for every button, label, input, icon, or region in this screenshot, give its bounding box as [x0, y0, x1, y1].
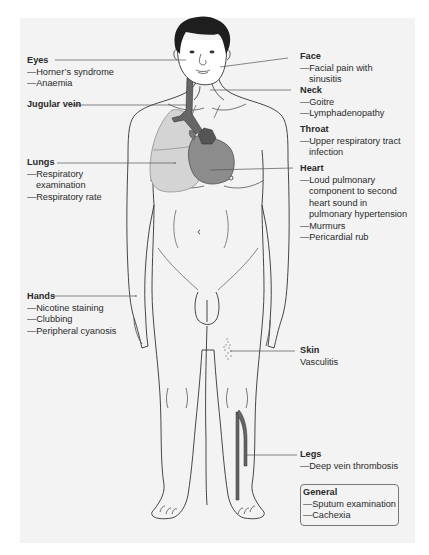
label-heart: Heart —Loud pulmonary component to secon… — [300, 163, 407, 244]
label-legs: Legs —Deep vein thrombosis — [300, 449, 398, 472]
label-hands: Hands —Nicotine staining —Clubbing —Peri… — [27, 291, 116, 337]
label-neck: Neck —Goitre —Lymphadenopathy — [300, 85, 384, 120]
label-face: Face —Facial pain with sinusitis — [300, 51, 373, 86]
label-general: General —Sputum examination —Cachexia — [303, 487, 396, 522]
label-throat: Throat —Upper respiratory tract infectio… — [300, 124, 401, 159]
vasculitis-patch — [223, 338, 231, 359]
label-lungs: Lungs —Respiratory examination —Respirat… — [27, 157, 102, 203]
leg-vein — [236, 412, 239, 500]
label-eyes: Eyes —Horner’s syndrome —Anaemia — [27, 55, 114, 90]
head — [178, 40, 227, 85]
label-skin: Skin Vasculitis — [300, 345, 338, 368]
label-jugular-vein: Jugular vein — [27, 99, 81, 111]
